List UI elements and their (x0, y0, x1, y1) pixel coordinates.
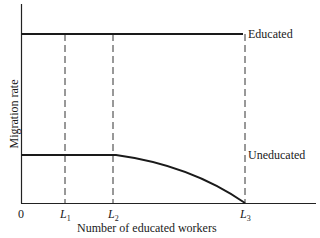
l3-tick-label: L3 (240, 208, 251, 223)
l3-subscript: 3 (247, 214, 251, 223)
l2-letter: L (108, 207, 115, 221)
x-axis-label: Number of educated workers (77, 222, 217, 234)
uneducated-series-label: Uneducated (248, 149, 305, 161)
l1-tick-label: L1 (60, 208, 71, 223)
y-axis-label: Migration rate (8, 66, 20, 162)
origin-tick-label: 0 (18, 208, 24, 220)
l1-letter: L (60, 207, 67, 221)
uneducated-series-line (21, 155, 245, 203)
educated-series-label: Educated (248, 28, 293, 40)
l1-subscript: 1 (67, 214, 71, 223)
l3-letter: L (240, 207, 247, 221)
